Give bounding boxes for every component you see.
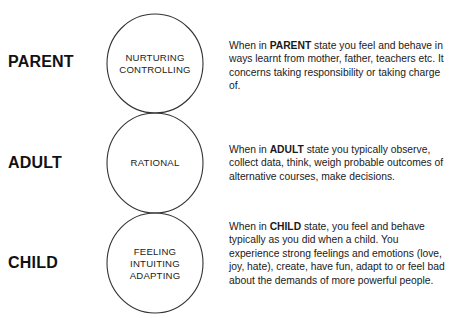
desc-bold: CHILD (270, 221, 301, 232)
circle-line: CONTROLLING (107, 64, 203, 76)
desc-prefix: When in (229, 221, 270, 232)
child-label: CHILD (8, 254, 58, 272)
circle-line: RATIONAL (107, 157, 203, 169)
adult-label: ADULT (8, 154, 62, 172)
adult-circle-text: RATIONAL (107, 157, 203, 169)
adult-description: When in ADULT state you typically observ… (229, 143, 451, 183)
child-description: When in CHILD state, you feel and behave… (229, 220, 451, 287)
desc-prefix: When in (229, 40, 270, 51)
circle-line: INTUITING (107, 258, 203, 270)
desc-bold: PARENT (270, 40, 312, 51)
parent-label: PARENT (8, 53, 74, 71)
desc-prefix: When in (229, 144, 270, 155)
circle-line: NURTURING (107, 52, 203, 64)
child-circle-text: FEELING INTUITING ADAPTING (107, 246, 203, 282)
circle-line: FEELING (107, 246, 203, 258)
circle-line: ADAPTING (107, 270, 203, 282)
parent-circle-text: NURTURING CONTROLLING (107, 52, 203, 76)
desc-bold: ADULT (270, 144, 304, 155)
parent-description: When in PARENT state you feel and behave… (229, 39, 451, 93)
